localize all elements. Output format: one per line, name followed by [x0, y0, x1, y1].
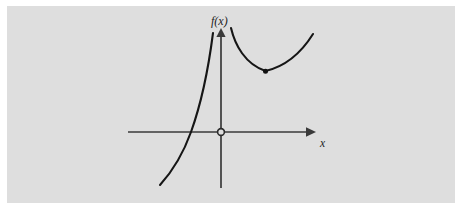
- y-axis-label: f(x): [211, 14, 228, 28]
- function-graph: f(x) x: [0, 0, 462, 209]
- curve-right-branch: [231, 28, 313, 71]
- figure-root: f(x) x: [0, 0, 462, 209]
- x-axis-arrowhead: [306, 127, 316, 137]
- local-minimum-dot: [263, 69, 268, 74]
- y-axis-arrowhead: [216, 28, 225, 37]
- origin-marker: [218, 129, 225, 136]
- x-axis-label: x: [319, 137, 326, 149]
- curve-left-branch: [160, 33, 213, 185]
